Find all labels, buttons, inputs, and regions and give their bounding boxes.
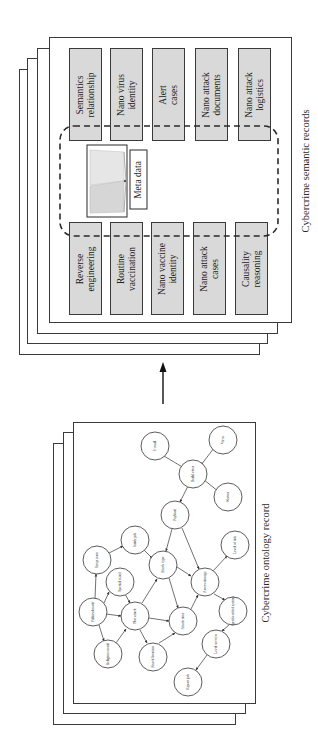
node-label: Level success xyxy=(214,633,218,653)
svg-text:Report job: Report job xyxy=(186,674,190,689)
svg-text:Assess damage: Assess damage xyxy=(203,571,207,593)
svg-text:Inside job: Inside job xyxy=(133,533,137,547)
svg-text:Attack location: Attack location xyxy=(151,646,155,668)
svg-text:Setup team: Setup team xyxy=(95,552,99,568)
node-label: Build virus xyxy=(191,465,195,482)
svg-text:Specific critical systems: Specific critical systems xyxy=(231,596,235,626)
svg-text:Level of risk: Level of risk xyxy=(233,536,237,555)
node-label: Setup team xyxy=(95,552,99,568)
svg-text:Virus: Virus xyxy=(221,436,225,444)
node-label: Special motif xyxy=(118,572,122,592)
node-label: Inside job xyxy=(133,533,137,547)
svg-text:Plot attack: Plot attack xyxy=(133,608,137,623)
svg-text:E-mail: E-mail xyxy=(153,441,157,451)
node-label: Plot attack xyxy=(133,608,137,623)
node-label: Payload xyxy=(173,509,177,521)
node-label: Level of risk xyxy=(233,536,237,555)
node-label: Attack type xyxy=(161,556,165,573)
svg-text:Special motif: Special motif xyxy=(118,572,122,592)
ontology-record-caption: Cybercrime ontology record xyxy=(259,498,273,628)
svg-text:Religious motif: Religious motif xyxy=(106,642,110,665)
svg-text:Level success: Level success xyxy=(214,633,218,653)
node-label: Worms xyxy=(226,491,230,502)
node-label: Assess damage xyxy=(203,571,207,593)
node-label: Attack time xyxy=(181,612,185,629)
svg-text:Worms: Worms xyxy=(226,491,230,502)
svg-text:Attack time: Attack time xyxy=(181,612,185,629)
node-label: Report job xyxy=(186,674,190,689)
node-label: Attack location xyxy=(151,646,155,668)
node-label: Religious motif xyxy=(106,642,110,665)
node-label: Political motif xyxy=(91,601,95,622)
svg-text:Attack type: Attack type xyxy=(161,556,165,573)
svg-text:Payload: Payload xyxy=(173,509,177,521)
node-label: Specific critical systems xyxy=(231,596,235,626)
svg-text:Build virus: Build virus xyxy=(191,465,195,482)
svg-text:Political motif: Political motif xyxy=(91,601,95,622)
node-label: Virus xyxy=(221,436,225,444)
ontology-graph: E-mail Virus Build virus Worms Payload I… xyxy=(0,0,318,749)
node-label: E-mail xyxy=(153,441,157,451)
